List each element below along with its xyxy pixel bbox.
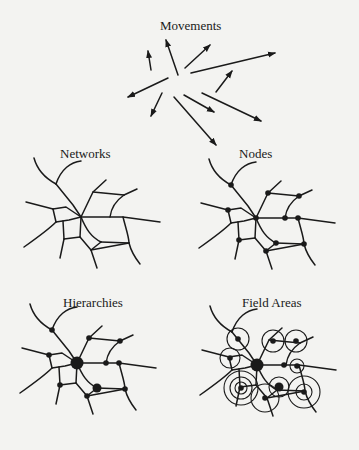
diagram-svg xyxy=(0,0,359,450)
hierarchies-graph xyxy=(20,304,156,414)
movements-arrows xyxy=(128,40,275,145)
field-areas-graph xyxy=(200,306,336,416)
diagram-figure: Movements Networks Nodes Hierarchies Fie… xyxy=(0,0,359,450)
networks-graph xyxy=(24,158,160,268)
nodes-graph xyxy=(199,159,335,269)
